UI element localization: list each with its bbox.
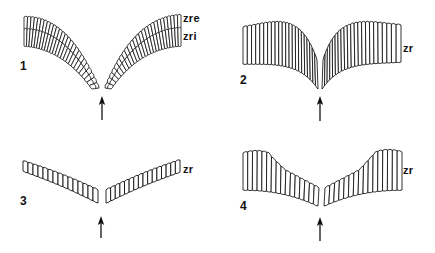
- panel-4-zone-label-zr: zr: [403, 165, 413, 176]
- panel-1-figure: [24, 14, 181, 89]
- arrows: [98, 96, 323, 241]
- panel-1-number: 1: [20, 60, 27, 72]
- panel-3-number: 3: [20, 195, 27, 207]
- panel-2-number: 2: [240, 74, 247, 86]
- diagram-canvas: [0, 0, 435, 253]
- panel-1-zone-label-zri: zri: [183, 31, 197, 42]
- panel-4-number: 4: [240, 200, 247, 212]
- panel-3-figure: [23, 160, 180, 203]
- panel-2-figure: [243, 21, 401, 89]
- panel-1-zone-label-zre: zre: [183, 13, 200, 24]
- panel-4-figure: [243, 149, 402, 206]
- panel-2-zone-label-zr: zr: [403, 43, 413, 54]
- panel-3-zone-label-zr: zr: [183, 164, 193, 175]
